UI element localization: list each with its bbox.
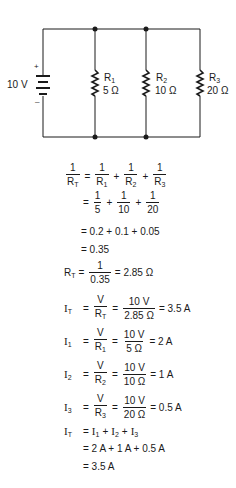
resistor-r2-icon [143, 70, 149, 96]
r3-value: 20 Ω [207, 85, 228, 96]
equation-substituted: = 15 + 110 + 120 [80, 190, 161, 215]
negative-terminal-label: – [35, 96, 39, 107]
r1-value: 5 Ω [103, 85, 119, 96]
equation-decimal-sum: = 0.2 + 0.1 + 0.05 [81, 226, 160, 237]
r2-value: 10 Ω [155, 85, 176, 96]
equation-i2: I2 = VR2 = 10 V10 Ω = 1 A [64, 360, 173, 388]
equation-i1: I1 = VR1 = 10 V5 Ω = 2 A [64, 327, 172, 355]
resistor-r1-icon [92, 70, 98, 96]
equation-decimal-total: = 0.35 [81, 244, 109, 255]
battery-icon [36, 76, 50, 94]
parallel-circuit-diagram [0, 0, 236, 150]
source-voltage-label: 10 V [7, 79, 28, 90]
equation-i3: I3 = VR3 = 10 V20 Ω = 0.5 A [64, 393, 182, 421]
junction-dots [93, 27, 149, 140]
resistor-r3-icon [197, 70, 203, 96]
equation-it: IT = VRT = 10 V2.85 Ω = 3.5 A [64, 294, 190, 322]
positive-terminal-label: + [34, 61, 39, 72]
r1-label: R1 [104, 72, 115, 86]
r3-label: R3 [209, 72, 220, 86]
equation-it-values: = 2 A + 1 A + 0.5 A [83, 443, 165, 454]
equation-reciprocal-sum: 1RT = 1R1 + 1R2 + 1R3 [64, 162, 168, 190]
equation-it-total: = 3.5 A [83, 461, 114, 472]
equation-rt: RT = 10.35 = 2.85 Ω [64, 260, 156, 285]
equation-it-sum: IT = I1 + I2 + I3 [64, 425, 138, 438]
r2-label: R2 [156, 72, 167, 86]
